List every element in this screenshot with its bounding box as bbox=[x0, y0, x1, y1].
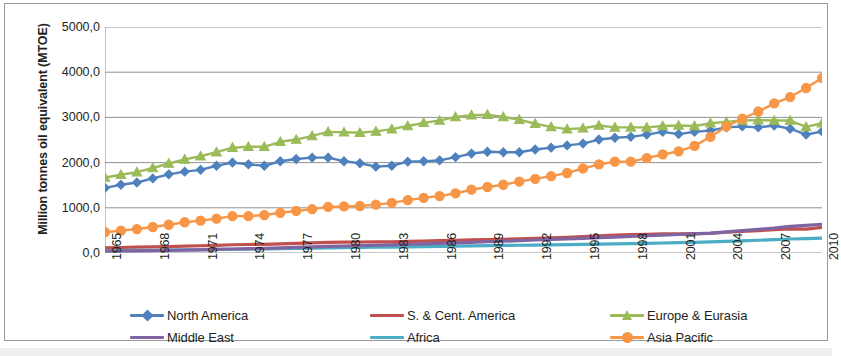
x-axis-tick-label: 1992 bbox=[540, 233, 554, 260]
data-point-marker bbox=[483, 182, 492, 191]
y-axis-tick-label: 1000,0 bbox=[34, 201, 100, 215]
data-point-marker bbox=[515, 177, 524, 186]
data-point-marker bbox=[180, 218, 189, 227]
data-point-marker bbox=[212, 214, 221, 223]
data-point-marker bbox=[817, 73, 822, 82]
legend-label: Middle East bbox=[167, 330, 234, 345]
x-axis-tick-labels: 1965196819711974197719801983198619891992… bbox=[105, 258, 822, 304]
data-point-marker bbox=[196, 216, 205, 225]
x-axis-tick-label: 1983 bbox=[397, 233, 411, 260]
data-point-marker bbox=[228, 212, 237, 221]
series-europe-eurasia bbox=[105, 110, 822, 181]
data-point-marker bbox=[105, 184, 109, 193]
data-point-marker bbox=[642, 153, 651, 162]
data-point-marker bbox=[531, 174, 540, 183]
data-point-marker bbox=[164, 170, 173, 179]
data-point-marker bbox=[276, 208, 285, 217]
data-point-marker bbox=[387, 198, 396, 207]
data-point-marker bbox=[547, 172, 556, 181]
data-point-marker bbox=[339, 202, 348, 211]
legend-label: Asia Pacific bbox=[647, 330, 713, 345]
y-axis-tick-labels: 0,01000,02000,03000,04000,05000,0 bbox=[34, 0, 100, 356]
data-point-marker bbox=[610, 157, 619, 166]
data-point-marker bbox=[117, 180, 126, 189]
legend-item-north-america[interactable]: North America bbox=[130, 305, 248, 325]
data-point-marker bbox=[626, 157, 635, 166]
legend-label: North America bbox=[167, 308, 248, 323]
data-point-marker bbox=[499, 180, 508, 189]
data-point-marker bbox=[308, 205, 317, 214]
y-axis-tick-label: 0,0 bbox=[34, 246, 100, 260]
data-point-marker bbox=[610, 133, 619, 142]
series-north-america bbox=[105, 121, 822, 192]
data-point-marker bbox=[276, 157, 285, 166]
data-point-marker bbox=[483, 147, 492, 156]
data-point-marker bbox=[451, 189, 460, 198]
legend-item-africa[interactable]: Africa bbox=[370, 327, 440, 347]
data-point-marker bbox=[674, 147, 683, 156]
data-point-marker bbox=[180, 167, 189, 176]
y-axis-tick-label: 2000,0 bbox=[34, 156, 100, 170]
legend-swatch-icon bbox=[610, 308, 644, 322]
x-axis-tick-label: 1986 bbox=[445, 233, 459, 260]
data-point-marker bbox=[706, 132, 715, 141]
data-point-marker bbox=[578, 164, 587, 173]
x-axis-tick-label: 1989 bbox=[492, 233, 506, 260]
data-point-marker bbox=[515, 148, 524, 157]
x-axis-tick-label: 1995 bbox=[588, 233, 602, 260]
legend-label: S. & Cent. America bbox=[407, 308, 515, 323]
page-bottom-edge bbox=[0, 348, 832, 356]
data-point-marker bbox=[132, 178, 141, 187]
data-point-marker bbox=[594, 160, 603, 169]
legend-swatch-icon bbox=[130, 330, 164, 344]
data-point-marker bbox=[356, 159, 365, 168]
data-point-marker bbox=[817, 118, 822, 127]
data-point-marker bbox=[355, 201, 364, 210]
chart-legend: North AmericaS. & Cent. AmericaEurope & … bbox=[130, 305, 820, 349]
data-point-marker bbox=[658, 150, 667, 159]
y-axis-tick-label: 3000,0 bbox=[34, 110, 100, 124]
x-axis-tick-label: 2001 bbox=[684, 233, 698, 260]
data-point-marker bbox=[292, 206, 301, 215]
x-axis-tick-label: 1974 bbox=[253, 233, 267, 260]
data-point-marker bbox=[754, 107, 763, 116]
data-point-marker bbox=[531, 145, 540, 154]
data-point-marker bbox=[674, 130, 683, 139]
data-point-marker bbox=[403, 157, 412, 166]
data-point-marker bbox=[324, 153, 333, 162]
x-axis-tick-label: 1980 bbox=[349, 233, 363, 260]
data-point-marker bbox=[562, 168, 571, 177]
data-point-marker bbox=[419, 157, 428, 166]
data-point-marker bbox=[244, 160, 253, 169]
legend-item-asia-pacific[interactable]: Asia Pacific bbox=[610, 327, 713, 347]
data-point-marker bbox=[467, 149, 476, 158]
data-point-marker bbox=[786, 92, 795, 101]
data-point-marker bbox=[770, 99, 779, 108]
data-point-marker bbox=[738, 114, 747, 123]
legend-item-europe-eurasia[interactable]: Europe & Eurasia bbox=[610, 305, 747, 325]
x-axis-tick-label: 2010 bbox=[827, 233, 841, 260]
legend-swatch-icon bbox=[610, 330, 644, 344]
x-axis-tick-label: 1968 bbox=[158, 233, 172, 260]
data-point-marker bbox=[419, 193, 428, 202]
x-axis-tick-label: 1971 bbox=[206, 233, 220, 260]
y-axis-tick-label: 4000,0 bbox=[34, 65, 100, 79]
data-point-marker bbox=[451, 153, 460, 162]
x-axis-tick-label: 2007 bbox=[779, 233, 793, 260]
data-point-marker bbox=[467, 185, 476, 194]
data-point-marker bbox=[323, 202, 332, 211]
data-point-marker bbox=[196, 165, 205, 174]
data-point-marker bbox=[690, 141, 699, 150]
data-point-marker bbox=[308, 153, 317, 162]
legend-item-middle-east[interactable]: Middle East bbox=[130, 327, 234, 347]
data-point-marker bbox=[148, 174, 157, 183]
legend-swatch-icon bbox=[370, 308, 404, 322]
legend-label: Europe & Eurasia bbox=[647, 308, 747, 323]
legend-label: Africa bbox=[407, 330, 440, 345]
legend-swatch-icon bbox=[370, 330, 404, 344]
data-point-marker bbox=[435, 156, 444, 165]
x-axis-tick-label: 1998 bbox=[636, 233, 650, 260]
legend-item-s-cent-america[interactable]: S. & Cent. America bbox=[370, 305, 515, 325]
data-point-marker bbox=[722, 122, 731, 131]
